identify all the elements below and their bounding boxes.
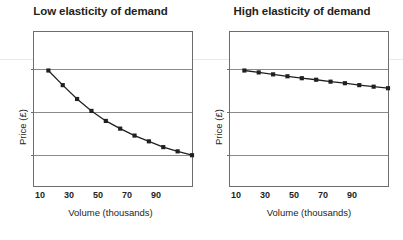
x-axis-tick-label-70: 70 [122,190,132,200]
y-axis-title-low-elasticity: Price (£) [17,109,28,145]
data-point-marker [176,149,180,153]
x-axis-tick-label-10: 10 [35,190,45,200]
x-axis-title-low-elasticity: Volume (thousands) [0,207,201,218]
data-point-marker [257,70,261,74]
data-point-marker [118,127,122,131]
data-point-marker [314,78,318,82]
chart-panel-low-elasticity: Low elasticity of demand 10 30 50 70 90 … [0,0,201,240]
x-axis-tick-label-30: 30 [64,190,74,200]
data-point-marker [89,109,93,113]
chart-panel-high-elasticity: High elasticity of demand 10 30 50 70 90… [201,0,403,240]
chart-title-high-elasticity: High elasticity of demand [201,5,403,17]
data-point-marker [386,86,390,90]
data-point-marker [61,83,65,87]
x-axis-tick-label-90: 90 [151,190,161,200]
data-point-marker [46,68,50,72]
y-axis-title-high-elasticity: Price (£) [213,109,224,145]
x-axis-tick-label-50: 50 [93,190,103,200]
x-axis-tick-label-50: 50 [289,190,299,200]
series-line [48,71,192,156]
x-axis-tick-label-70: 70 [318,190,328,200]
plot-area-low-elasticity [33,31,193,187]
data-point-marker [357,83,361,87]
chart-title-low-elasticity: Low elasticity of demand [0,5,201,17]
data-point-marker [300,76,304,80]
data-point-marker [104,119,108,123]
data-point-marker [161,145,165,149]
data-point-marker [372,85,376,89]
x-axis-tick-label-90: 90 [347,190,357,200]
x-axis-tick-label-10: 10 [231,190,241,200]
data-point-marker [147,139,151,143]
data-point-marker [132,133,136,137]
data-point-marker [190,153,194,157]
plot-area-high-elasticity [229,31,389,187]
data-point-marker [75,97,79,101]
data-point-marker [285,74,289,78]
x-axis-title-high-elasticity: Volume (thousands) [201,207,403,218]
data-point-marker [242,68,246,72]
data-series-high-elasticity [230,32,388,186]
data-point-marker [343,81,347,85]
data-point-marker [328,80,332,84]
data-series-low-elasticity [34,32,192,186]
data-point-marker [271,72,275,76]
x-axis-tick-label-30: 30 [260,190,270,200]
